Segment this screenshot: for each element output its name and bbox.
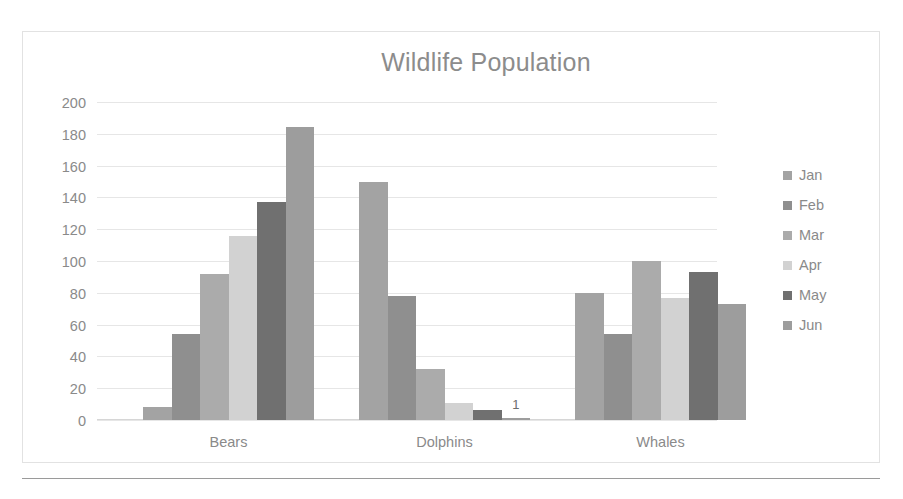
- legend-label: Mar: [799, 227, 824, 243]
- chart-frame: Wildlife Population 20018016014012010080…: [22, 31, 880, 463]
- chart-legend: JanFebMarAprMayJun: [783, 160, 873, 340]
- y-axis-tick-label: 140: [62, 190, 86, 206]
- bar-value-label: 1: [512, 397, 519, 412]
- bar[interactable]: [229, 236, 258, 420]
- y-axis-tick-label: 40: [70, 349, 86, 365]
- bar[interactable]: [632, 261, 661, 420]
- bar[interactable]: [257, 202, 286, 420]
- legend-item[interactable]: May: [783, 280, 873, 310]
- y-axis-tick-label: 100: [62, 254, 86, 270]
- bar[interactable]: [416, 369, 445, 420]
- bar[interactable]: [200, 274, 229, 420]
- bar[interactable]: [604, 334, 633, 420]
- y-axis-tick-label: 20: [70, 381, 86, 397]
- bar[interactable]: [661, 298, 690, 420]
- bar[interactable]: [473, 410, 502, 420]
- legend-item[interactable]: Apr: [783, 250, 873, 280]
- bar[interactable]: [575, 293, 604, 420]
- legend-item[interactable]: Jun: [783, 310, 873, 340]
- y-axis-tick-label: 0: [78, 413, 86, 429]
- y-axis-tick-label: 60: [70, 318, 86, 334]
- bar[interactable]: [689, 272, 718, 420]
- x-axis-category-label: Bears: [129, 434, 329, 450]
- legend-item[interactable]: Jan: [783, 160, 873, 190]
- chart-title: Wildlife Population: [23, 48, 879, 77]
- y-axis-tick-label: 180: [62, 127, 86, 143]
- legend-swatch-icon: [783, 171, 792, 180]
- legend-swatch-icon: [783, 321, 792, 330]
- legend-item[interactable]: Mar: [783, 220, 873, 250]
- legend-label: May: [799, 287, 826, 303]
- horizontal-rule: [22, 478, 880, 479]
- bar[interactable]: 1: [502, 418, 531, 420]
- bar[interactable]: [286, 127, 315, 420]
- legend-swatch-icon: [783, 291, 792, 300]
- bar[interactable]: [359, 182, 388, 421]
- bar[interactable]: [718, 304, 747, 420]
- legend-label: Feb: [799, 197, 824, 213]
- x-axis-category-label: Dolphins: [345, 434, 545, 450]
- bar-group: 1Dolphins: [359, 102, 530, 420]
- legend-label: Jan: [799, 167, 822, 183]
- gridline: 0: [97, 420, 717, 421]
- bar[interactable]: [143, 407, 172, 420]
- y-axis-tick-label: 200: [62, 95, 86, 111]
- legend-item[interactable]: Feb: [783, 190, 873, 220]
- bar-group: Whales: [575, 102, 746, 420]
- legend-swatch-icon: [783, 261, 792, 270]
- y-axis-tick-label: 160: [62, 159, 86, 175]
- legend-label: Apr: [799, 257, 822, 273]
- legend-swatch-icon: [783, 201, 792, 210]
- plot-area: 200180160140120100806040200 Bears1Dolphi…: [97, 102, 717, 420]
- legend-label: Jun: [799, 317, 822, 333]
- bar[interactable]: [388, 296, 417, 420]
- y-axis-tick-label: 80: [70, 286, 86, 302]
- x-axis-category-label: Whales: [561, 434, 761, 450]
- legend-swatch-icon: [783, 231, 792, 240]
- bar[interactable]: [172, 334, 201, 420]
- y-axis-tick-label: 120: [62, 222, 86, 238]
- bar[interactable]: [445, 403, 474, 420]
- bar-group: Bears: [143, 102, 314, 420]
